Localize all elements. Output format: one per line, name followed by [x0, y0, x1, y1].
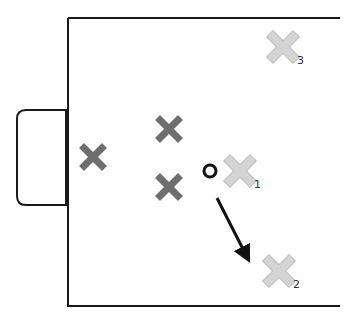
pass-arrow: [217, 198, 246, 255]
attacker-number-label: 1: [254, 178, 261, 191]
ball-icon: [204, 165, 216, 177]
attacker-1: 1: [230, 161, 261, 191]
attacker-2: 2: [269, 261, 300, 291]
defender-marker-icon: [160, 120, 178, 138]
defenders: [84, 120, 178, 196]
attacker-3: 3: [273, 37, 304, 67]
goal: [17, 110, 67, 205]
defender-marker-icon: [84, 148, 102, 166]
attackers: 123: [230, 37, 304, 291]
attacker-number-label: 2: [293, 278, 300, 291]
goal-net-outline: [17, 110, 67, 205]
attacker-number-label: 3: [297, 54, 304, 67]
soccer-diagram: 123: [0, 0, 358, 327]
defender-marker-icon: [160, 178, 178, 196]
